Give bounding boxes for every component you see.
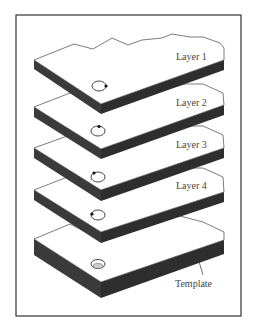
layer-stack-diagram: Template Layer 4 Layer 3 Layer 2 Layer 1 [0, 0, 254, 334]
layer-3-label: Layer 3 [176, 139, 207, 150]
layer-2-label: Layer 2 [176, 97, 207, 108]
layer-1-label: Layer 1 [176, 51, 207, 62]
layer-4-label: Layer 4 [176, 180, 207, 191]
template-label: Template [175, 278, 213, 289]
